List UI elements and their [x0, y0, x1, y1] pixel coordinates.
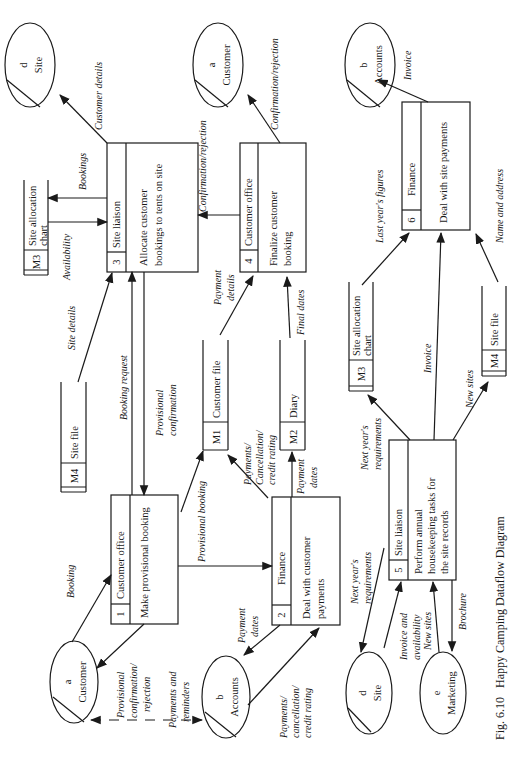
- flow-label-invoice-top: Invoice: [402, 50, 413, 81]
- process-5-annual-housekeeping: 5 Site liaison Perform annual housekeepi…: [389, 440, 456, 580]
- entity-name: Accounts: [229, 677, 240, 717]
- external-entity-accounts-bottom: b Accounts: [202, 656, 250, 738]
- flow-label-site-details: Site details: [66, 306, 77, 350]
- store-name: Site file: [69, 426, 80, 459]
- process-number: 2: [276, 612, 287, 617]
- flow-label-payment-dates-m2-1: Payment: [295, 459, 306, 495]
- flow-label-customer-details: Customer details: [93, 62, 104, 130]
- process-actor: Customer office: [243, 178, 254, 246]
- flow-label-pcc-acc-1: Payments/: [278, 695, 289, 739]
- flow-label-next-years-req-site-1: Next year's: [349, 559, 360, 605]
- entity-id: b: [358, 62, 369, 67]
- entity-id: a: [62, 679, 73, 684]
- flow-label-prov-confirmation-2: confirmation: [167, 384, 178, 436]
- flow-label-payment-dates-acc-2: dates: [249, 616, 260, 637]
- data-store-m3-bottom: M3 Site allocation chart: [349, 282, 373, 391]
- external-entity-accounts-top: b Accounts: [345, 23, 395, 107]
- external-entity-customer-top: a Customer: [193, 23, 243, 107]
- data-store-m4-bottom: M4 Site file: [482, 286, 506, 376]
- process-task-line2: housekeeping tasks for: [426, 477, 437, 574]
- flow-label-prov-conf-2: confirmation/: [128, 662, 139, 718]
- external-entity-site-top: d Site: [5, 23, 55, 107]
- flow-label-last-years-figures: Last year's figures: [374, 169, 385, 244]
- process-task-line2: bookings to tents on site: [153, 164, 164, 266]
- flow-label-next-years-req-m3-2: requirements: [372, 418, 383, 470]
- flow-label-payment-dates-m2-2: dates: [308, 467, 319, 488]
- store-id: M3: [31, 255, 42, 270]
- entity-name: Customer: [77, 661, 88, 702]
- data-store-m4-top: M4 Site file: [61, 382, 86, 492]
- flow-label-prov-confirmation-1: Provisional: [154, 389, 165, 437]
- process-task-line2: payments: [315, 579, 326, 619]
- flow-label-availability: Availability: [61, 233, 72, 281]
- figure-caption: Fig. 6.10 Happy Camping Dataflow Diagram: [493, 516, 507, 740]
- flow-label-pcc-m1-2: Cancellation/: [254, 429, 265, 485]
- flow-label-confirmation-rejection-1: Confirmation/rejection: [197, 120, 208, 212]
- flow-label-pcc-m1-1: Payments/: [242, 442, 253, 486]
- entity-id: a: [206, 62, 217, 67]
- process-6-site-payments: 6 Finance Deal with site payments: [402, 102, 470, 230]
- process-task-line3: the site records: [439, 510, 450, 574]
- process-task-line1: Deal with customer: [301, 536, 312, 619]
- entity-name: Accounts: [373, 45, 384, 85]
- store-name-line2: chart: [362, 335, 373, 356]
- process-3-allocate-bookings: 3 Site liaison Allocate customer booking…: [107, 143, 198, 272]
- process-task-line1: Deal with site payments: [438, 122, 449, 223]
- flow-label-new-sites-m4: New sites: [464, 370, 475, 409]
- process-4-finalize-booking: 4 Customer office Finalize customer book…: [240, 143, 306, 272]
- process-number: 4: [243, 258, 254, 264]
- flow-label-next-years-req-site-2: requirements: [362, 552, 373, 604]
- flow-label-payments-reminders-2: reminders: [180, 682, 191, 722]
- flow-label-confirmation-rejection-2: Confirmation/rejection: [269, 38, 280, 130]
- store-id: M2: [288, 430, 299, 445]
- store-name: Site file: [489, 313, 500, 346]
- dataflow-diagram: d Site a Customer b Accounts a Customer …: [0, 0, 511, 757]
- process-2-customer-payments: 2 Finance Deal with customer payments: [272, 497, 340, 625]
- store-name-line2: chart: [38, 225, 49, 246]
- process-actor: Site liaison: [393, 508, 404, 556]
- entity-name: Site: [372, 684, 383, 701]
- data-store-m3-top: M3 Site allocation chart: [24, 180, 49, 275]
- flow-label-prov-conf-1: Provisional: [115, 671, 126, 719]
- entity-id: b: [214, 694, 225, 699]
- flow-label-bookings: Bookings: [77, 153, 88, 190]
- process-task-line1: Make provisional booking: [139, 506, 150, 618]
- store-name: Customer file: [211, 360, 222, 418]
- entity-id: d: [18, 62, 29, 68]
- process-1-provisional-booking: 1 Customer office Make provisional booki…: [111, 495, 178, 624]
- process-actor: Finance: [276, 551, 287, 585]
- flow-label-new-sites-marketing: New sites: [422, 612, 433, 651]
- flow-label-payment-details-2: details: [225, 274, 236, 301]
- process-task-line2: booking: [282, 231, 293, 266]
- flow-label-payments-reminders-1: Payments and: [167, 671, 178, 729]
- data-store-m1: M1 Customer file: [203, 340, 228, 450]
- entity-id: d: [357, 690, 368, 696]
- process-number: 6: [406, 217, 417, 222]
- flow-label-final-dates: Final dates: [295, 290, 306, 336]
- store-id: M4: [489, 353, 500, 368]
- data-store-m2: M2 Diary: [280, 340, 305, 450]
- store-id: M4: [69, 468, 80, 483]
- process-task-line1: Allocate customer: [138, 189, 149, 266]
- external-entity-marketing: e Marketing: [420, 652, 466, 734]
- process-actor: Site liaison: [111, 200, 122, 248]
- flow-label-booking-request: Booking request: [118, 355, 129, 420]
- entity-id: e: [431, 690, 442, 695]
- entity-name: Customer: [221, 44, 232, 85]
- store-id: M1: [211, 430, 222, 445]
- entity-name: Marketing: [446, 670, 457, 714]
- store-id: M3: [356, 367, 367, 382]
- flow-label-payment-dates-acc-1: Payment: [236, 608, 247, 644]
- store-name: Diary: [288, 393, 299, 418]
- flow-label-pcc-acc-3: credit rating: [302, 688, 313, 738]
- process-number: 1: [115, 611, 126, 616]
- external-entity-customer-bottom: a Customer: [50, 641, 98, 723]
- entity-name: Site: [33, 56, 44, 73]
- flow-label-invoice-mid: Invoice: [422, 343, 433, 374]
- flow-label-prov-conf-3: rejection: [141, 677, 152, 712]
- flow-label-invoice-availability-2: availability: [411, 614, 422, 660]
- flow-label-payment-details-1: Payment: [212, 270, 223, 306]
- external-entity-site-bottom: d Site: [346, 652, 392, 734]
- store-name-line1: Site allocation: [351, 295, 362, 356]
- flow-label-booking: Booking: [65, 565, 76, 598]
